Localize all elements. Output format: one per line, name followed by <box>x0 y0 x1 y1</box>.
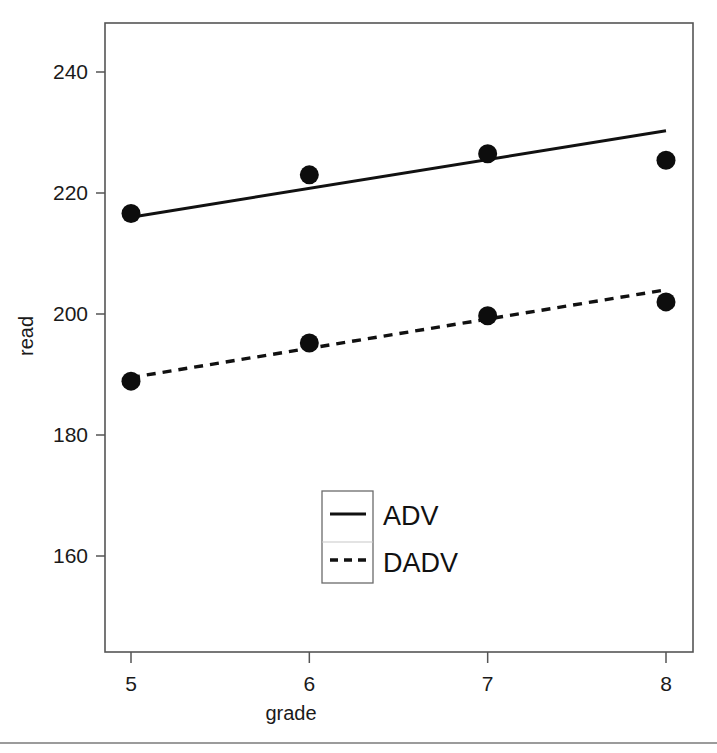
y-tick-label-200: 200 <box>53 302 88 325</box>
x-tick-label-5: 5 <box>125 672 137 695</box>
x-tick-label-6: 6 <box>303 672 315 695</box>
data-point-adv-grade7 <box>478 144 497 163</box>
legend-box <box>322 491 373 583</box>
chart-background <box>0 0 717 753</box>
x-tick-label-7: 7 <box>482 672 494 695</box>
y-tick-label-240: 240 <box>53 60 88 83</box>
y-tick-label-220: 220 <box>53 181 88 204</box>
data-point-dadv-grade6 <box>300 334 319 353</box>
data-point-adv-grade6 <box>300 165 319 184</box>
x-axis-title: grade <box>265 702 316 724</box>
scatter-line-chart: 240 220 200 180 160 5 6 7 8 grade read <box>0 0 717 753</box>
x-tick-label-8: 8 <box>660 672 672 695</box>
data-point-dadv-grade8 <box>657 292 676 311</box>
legend-label-adv: ADV <box>383 501 439 531</box>
data-point-adv-grade5 <box>122 204 141 223</box>
data-point-dadv-grade5 <box>122 372 141 391</box>
legend-label-dadv: DADV <box>383 548 458 578</box>
y-tick-label-160: 160 <box>53 544 88 567</box>
chart-figure: 240 220 200 180 160 5 6 7 8 grade read <box>0 0 717 753</box>
data-point-dadv-grade7 <box>478 306 497 325</box>
y-tick-label-180: 180 <box>53 423 88 446</box>
data-point-adv-grade8 <box>657 151 676 170</box>
y-axis-title: read <box>15 316 37 356</box>
